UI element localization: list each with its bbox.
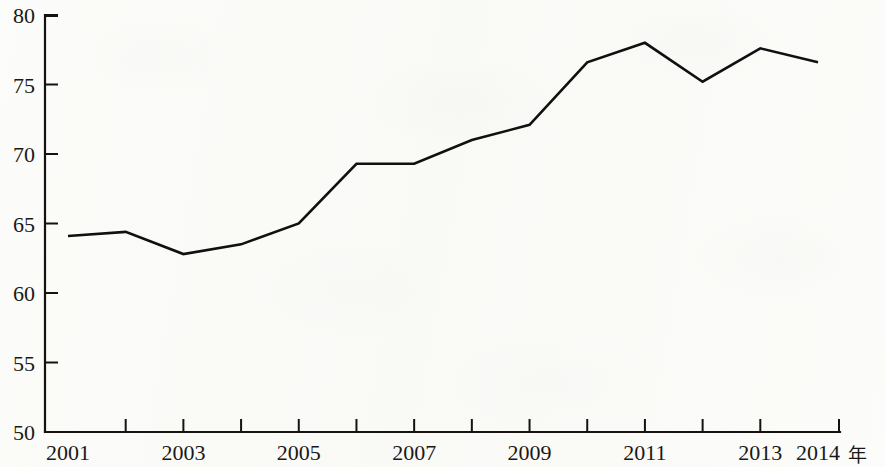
y-tick-labels: 50556065707580 bbox=[13, 3, 35, 445]
x-tick-label: 2007 bbox=[392, 440, 436, 465]
x-tick-marks bbox=[126, 419, 761, 432]
chart-plot-area: 50556065707580 2001200320052007200920112… bbox=[0, 0, 886, 467]
y-tick-label: 75 bbox=[13, 73, 35, 98]
x-tick-label: 2011 bbox=[623, 440, 666, 465]
x-tick-label: 2003 bbox=[161, 440, 205, 465]
x-tick-labels: 20012003200520072009201120132014 bbox=[46, 440, 840, 465]
x-tick-label: 2013 bbox=[738, 440, 782, 465]
x-axis-unit-label: 年 bbox=[848, 445, 867, 466]
y-tick-label: 70 bbox=[13, 142, 35, 167]
y-tick-label: 50 bbox=[13, 420, 35, 445]
x-tick-label: 2005 bbox=[277, 440, 321, 465]
y-tick-marks bbox=[45, 15, 58, 363]
line-chart: 50556065707580 2001200320052007200920112… bbox=[0, 0, 886, 467]
x-tick-label: 2014 bbox=[796, 440, 840, 465]
y-tick-label: 80 bbox=[13, 3, 35, 28]
x-tick-label: 2001 bbox=[46, 440, 90, 465]
y-tick-label: 55 bbox=[13, 351, 35, 376]
y-tick-label: 60 bbox=[13, 281, 35, 306]
data-series-line bbox=[68, 43, 818, 254]
x-tick-label: 2009 bbox=[508, 440, 552, 465]
y-tick-label: 65 bbox=[13, 212, 35, 237]
